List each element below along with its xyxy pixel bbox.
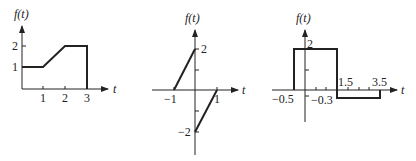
tick-label: 2 (12, 39, 18, 53)
y-label: f(t) (185, 11, 200, 25)
x-label: t (242, 83, 246, 97)
signal-segment (174, 49, 195, 90)
graph-2: f(t) t −1 1 2 −2 (152, 11, 246, 155)
tick-label: 2 (307, 37, 313, 51)
tick-label: −2 (178, 125, 191, 139)
tick-label: 3.5 (372, 75, 387, 89)
graph-3: f(t) t −0.5 −0.3 1.5 3.5 2 (272, 11, 405, 122)
tick-label: 3 (84, 91, 90, 105)
tick-label: −0.5 (272, 92, 294, 106)
x-label: t (401, 83, 405, 97)
y-label: f(t) (296, 11, 311, 25)
tick-label: 2 (201, 42, 207, 56)
signal-curve (22, 46, 87, 89)
tick-label: 1 (12, 60, 18, 74)
tick-label: −0.3 (311, 93, 333, 107)
tick-label: −1 (164, 92, 177, 106)
signal-curve (294, 49, 380, 98)
tick-label: 1.5 (338, 75, 353, 89)
x-label: t (113, 82, 117, 96)
graph-1: f(t) t 1 2 3 1 2 (12, 7, 117, 105)
tick-label: 1 (214, 92, 220, 106)
tick-label: 1 (40, 91, 46, 105)
tick-label: 2 (62, 91, 68, 105)
y-label: f(t) (14, 7, 29, 21)
signal-plots: f(t) t 1 2 3 1 2 f(t) t −1 1 2 −2 (0, 0, 416, 161)
